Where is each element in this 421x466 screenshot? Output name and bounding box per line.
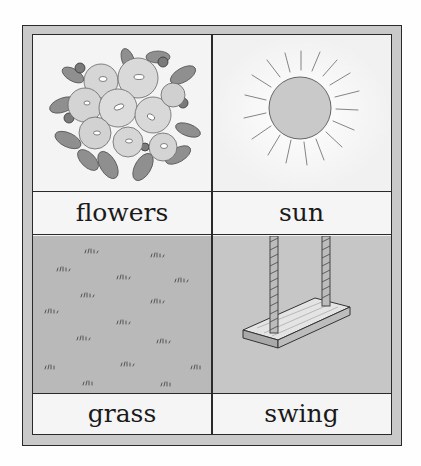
sun-icon [212, 35, 391, 192]
flowers-icon [33, 35, 211, 192]
sun-word: sun [279, 198, 324, 227]
picture-word-grid: flowers sun [32, 34, 392, 435]
grass-picture-cell [33, 236, 211, 394]
swing-icon [212, 236, 391, 394]
grass-label: grass [33, 395, 211, 434]
sun-label: sun [212, 193, 391, 235]
grass-icon [33, 236, 211, 394]
flowers-word: flowers [76, 198, 169, 227]
swing-label: swing [212, 395, 391, 434]
sun-picture-cell [212, 35, 391, 192]
flowers-label: flowers [33, 193, 211, 235]
swing-picture-cell [212, 236, 391, 394]
flowers-picture-cell [33, 35, 211, 192]
column-divider [211, 35, 213, 434]
swing-word: swing [264, 399, 338, 428]
grass-word: grass [88, 399, 157, 428]
